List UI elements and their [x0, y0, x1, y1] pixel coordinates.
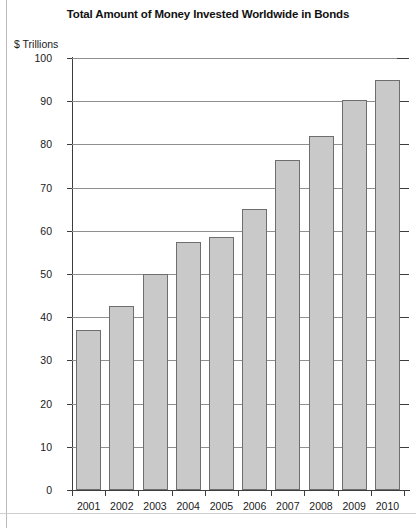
- y-axis-tick: [67, 274, 72, 275]
- scan-artifact-left-line: [6, 0, 7, 528]
- bar: [342, 100, 367, 490]
- x-axis-tick: [205, 491, 206, 496]
- bar: [143, 274, 168, 490]
- y-axis-tick: [67, 101, 72, 102]
- bar: [176, 242, 201, 490]
- y-axis-label: 10: [12, 442, 52, 453]
- plot-area: 1009080706050403020100: [72, 58, 404, 490]
- y-axis-unit-label: $ Trillions: [14, 38, 58, 50]
- x-axis-tick: [404, 491, 405, 496]
- y-axis-tick: [67, 404, 72, 405]
- x-axis-tick: [238, 491, 239, 496]
- y-axis-tick: [67, 144, 72, 145]
- y-axis-tick: [67, 360, 72, 361]
- scan-artifact-bottom-line: [0, 513, 416, 514]
- y-axis-tick: [67, 447, 72, 448]
- y-axis-label: 20: [12, 399, 52, 410]
- gridline: [72, 58, 404, 59]
- x-axis-tick: [338, 491, 339, 496]
- y-axis-tick: [67, 317, 72, 318]
- x-axis-tick: [105, 491, 106, 496]
- bar: [309, 136, 334, 490]
- y-axis-label: 90: [12, 96, 52, 107]
- bar: [109, 306, 134, 490]
- y-axis-label: 100: [12, 53, 52, 64]
- x-axis-tick: [72, 491, 73, 496]
- bar: [275, 160, 300, 490]
- x-axis-line: [72, 490, 410, 491]
- x-axis-tick: [304, 491, 305, 496]
- x-axis-tick: [371, 491, 372, 496]
- x-axis-tick: [271, 491, 272, 496]
- bar: [76, 330, 101, 490]
- y-axis-tick: [67, 188, 72, 189]
- x-axis-label: 2010: [367, 500, 407, 512]
- y-axis-tick-right: [397, 58, 409, 59]
- x-axis-tick: [138, 491, 139, 496]
- y-axis-label: 50: [12, 269, 52, 280]
- y-axis-label: 70: [12, 183, 52, 194]
- y-axis-tick: [67, 231, 72, 232]
- y-axis-label: 60: [12, 226, 52, 237]
- y-axis-label: 80: [12, 139, 52, 150]
- bar: [242, 209, 267, 490]
- chart-title: Total Amount of Money Invested Worldwide…: [0, 8, 416, 20]
- y-axis-label: 0: [12, 485, 52, 496]
- bar: [375, 80, 400, 490]
- y-axis-label: 30: [12, 355, 52, 366]
- bar: [209, 237, 234, 490]
- y-axis-label: 40: [12, 312, 52, 323]
- x-axis-tick: [172, 491, 173, 496]
- y-axis-tick: [67, 58, 72, 59]
